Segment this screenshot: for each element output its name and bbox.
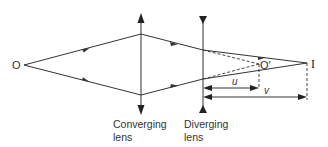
virtual-object-rays <box>203 50 307 100</box>
v-label: v <box>264 85 270 96</box>
diverging-lens-label-line2: lens <box>184 131 203 143</box>
converging-lens <box>138 13 145 115</box>
image-label: I <box>311 57 315 71</box>
converging-lens-label-line2: lens <box>113 131 132 143</box>
u-distance-arrow <box>203 85 259 91</box>
arrow-down-icon <box>138 105 145 115</box>
u-label: u <box>232 76 238 87</box>
arrow-up-icon <box>138 13 145 23</box>
object-label: O <box>12 59 21 71</box>
inverted-triangle-top-icon <box>199 16 207 24</box>
diverging-lens <box>199 16 207 113</box>
ray-arrow-icons <box>82 42 266 88</box>
inverted-triangle-bottom-icon <box>199 105 207 113</box>
lens-diagram: O O′ I <box>0 0 328 147</box>
converging-lens-label-line1: Converging <box>113 118 167 130</box>
virtual-object-label: O′ <box>260 59 271 71</box>
diverging-lens-label-line1: Diverging <box>184 118 229 130</box>
incident-rays <box>24 34 141 95</box>
v-distance-arrow <box>203 94 307 100</box>
